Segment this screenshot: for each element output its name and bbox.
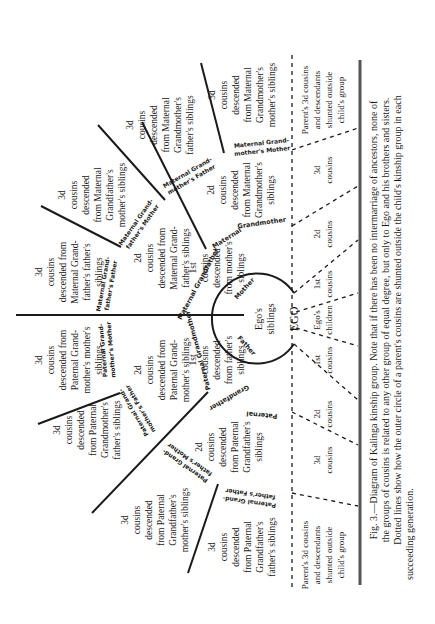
figure-caption: Fig. 3.—Diagram of Kalinga kinship group… — [368, 95, 415, 580]
svg-text:3d: 3d — [312, 455, 322, 465]
svg-text:the groups of cousins is relat: the groups of cousins is related to any … — [380, 98, 391, 543]
svg-text:Maternal Grand-: Maternal Grand- — [70, 240, 80, 304]
svg-text:descended: descended — [218, 427, 228, 467]
svg-text:cousins: cousins — [137, 110, 147, 139]
svg-text:cousins: cousins — [324, 346, 334, 373]
svg-text:father's siblings: father's siblings — [185, 95, 195, 155]
svg-text:father's father's: father's father's — [82, 243, 92, 301]
maternal-grandmother-label: Maternal Grandmother — [211, 216, 287, 251]
svg-text:cousins: cousins — [64, 415, 74, 444]
divider-pat-gf-outer — [188, 484, 218, 573]
ego-label: EGO — [287, 306, 301, 331]
svg-text:Grandmother's: Grandmother's — [173, 97, 183, 153]
svg-text:mother's siblings: mother's siblings — [267, 63, 277, 128]
third-cousins-mat-gm-father: 3d cousins descended from Maternal Grand… — [125, 95, 195, 155]
svg-text:mother's siblings: mother's siblings — [180, 488, 190, 553]
svg-text:descended: descended — [76, 410, 86, 450]
next-gen-3d-cousins-maternal: 3d cousins — [312, 156, 334, 183]
svg-text:cousins: cousins — [200, 345, 210, 374]
svg-text:mother's mother's: mother's mother's — [82, 326, 92, 393]
svg-text:siblings: siblings — [265, 303, 276, 334]
svg-text:Paternal: Paternal — [246, 410, 278, 421]
svg-text:2d: 2d — [312, 409, 322, 419]
svg-text:Grandfather's: Grandfather's — [168, 494, 178, 546]
svg-text:cousins: cousins — [46, 257, 56, 286]
svg-text:from Maternal: from Maternal — [243, 67, 253, 122]
svg-text:1st: 1st — [312, 354, 322, 365]
next-gen-1st-cousins-paternal: 1st cousins — [312, 346, 334, 373]
third-cousins-pat-gf-father: 3d cousins descended from Paternal Grand… — [207, 517, 277, 577]
svg-text:and descendants: and descendants — [312, 70, 322, 129]
svg-text:siblings: siblings — [236, 253, 246, 283]
next-gen-shunted-bottom: Parent's 3d cousins and descendants shun… — [300, 520, 346, 589]
svg-text:Paternal Grand-: Paternal Grand- — [70, 330, 80, 390]
next-gen-shunted-top: Parent's 3d cousins and descendants shun… — [300, 65, 346, 134]
svg-text:shunted outside: shunted outside — [324, 72, 334, 128]
svg-text:from Paternal: from Paternal — [243, 521, 253, 573]
svg-text:Grandfather's: Grandfather's — [255, 521, 265, 573]
svg-text:shunted outside: shunted outside — [324, 527, 334, 583]
svg-text:descended: descended — [149, 105, 159, 145]
svg-text:and descendants: and descendants — [312, 525, 322, 584]
svg-text:from Maternal: from Maternal — [161, 97, 171, 152]
third-cousins-mat-gf-mother: 3d cousins descended from Maternal Grand… — [57, 163, 127, 228]
next-gen-2d-cousins-maternal: 2d cousins — [312, 220, 334, 247]
maternal-grandmothers-mother-label: Maternal Grand- mother's Mother — [233, 136, 291, 157]
svg-text:mother's siblings: mother's siblings — [117, 163, 127, 228]
third-cousins-mat-gm-mother: 3d cousins descended from Maternal Grand… — [207, 63, 277, 128]
svg-text:siblings: siblings — [254, 432, 264, 462]
svg-text:from mother's: from mother's — [224, 241, 234, 294]
svg-text:Maternal Grand-: Maternal Grand- — [169, 226, 179, 290]
svg-text:2d: 2d — [133, 253, 143, 263]
svg-text:descended: descended — [212, 248, 222, 288]
svg-text:3d: 3d — [57, 190, 67, 200]
paternal-grandmothers-father-label: Paternal Grand- mother's Father — [117, 383, 157, 438]
next-gen-1st-cousins-maternal: 1st cousins — [312, 270, 334, 297]
paternal-grandfathers-father-label: Paternal Grand- father's Father — [222, 487, 278, 509]
dash-2d-top — [292, 186, 358, 226]
svg-text:descended: descended — [212, 340, 222, 380]
next-gen-egos-children: Ego's children — [312, 305, 334, 335]
third-cousins-mat-gf-father: 3d cousins descended from Maternal Grand… — [34, 240, 104, 304]
svg-text:child's group: child's group — [336, 76, 346, 123]
svg-text:Grandfather's: Grandfather's — [242, 421, 252, 473]
svg-text:Fig. 3.—Diagram of Kalinga kin: Fig. 3.—Diagram of Kalinga kinship group… — [368, 100, 379, 539]
svg-text:2d: 2d — [133, 365, 143, 375]
next-gen-3d-cousins-paternal: 3d cousins — [312, 446, 334, 473]
svg-text:descended from: descended from — [157, 227, 167, 288]
svg-text:descended: descended — [144, 500, 154, 540]
svg-text:cousins: cousins — [324, 220, 334, 247]
svg-text:father's siblings: father's siblings — [267, 517, 277, 577]
svg-text:2d: 2d — [194, 442, 204, 452]
svg-text:cousins: cousins — [324, 156, 334, 183]
svg-text:cousins: cousins — [219, 532, 229, 561]
svg-text:father's siblings: father's siblings — [112, 400, 122, 460]
svg-text:from father's: from father's — [224, 336, 234, 385]
svg-text:descended: descended — [231, 75, 241, 115]
svg-text:from Paternal: from Paternal — [88, 404, 98, 456]
svg-text:2d: 2d — [206, 185, 216, 195]
svg-text:3d: 3d — [207, 90, 217, 100]
svg-text:descended from: descended from — [58, 241, 68, 302]
svg-text:3d: 3d — [52, 425, 62, 435]
svg-text:cousins: cousins — [69, 180, 79, 209]
second-cousins-mat-gf: 2d cousins descended from Maternal Grand… — [133, 226, 191, 290]
svg-text:Grandfather: Grandfather — [207, 383, 250, 413]
svg-text:from Maternal: from Maternal — [93, 167, 103, 222]
svg-text:cousins: cousins — [206, 432, 216, 461]
svg-text:from Maternal: from Maternal — [242, 162, 252, 217]
svg-text:3d: 3d — [207, 542, 217, 552]
kinship-diagram: EGO Ego's siblings Mother Father Materna… — [0, 0, 435, 624]
svg-text:descended from: descended from — [157, 339, 167, 400]
second-cousins-pat-gf: 2d cousins descended from Paternal Grand… — [194, 421, 264, 473]
svg-text:3d: 3d — [34, 267, 44, 277]
svg-text:children: children — [324, 305, 334, 335]
svg-text:Parent's 3d cousins: Parent's 3d cousins — [300, 520, 310, 589]
svg-text:3d: 3d — [125, 120, 135, 130]
svg-text:3d: 3d — [312, 165, 322, 175]
third-cousins-pat-gf-mother: 3d cousins descended from Paternal Grand… — [120, 488, 190, 553]
svg-text:Ego's: Ego's — [253, 308, 264, 330]
svg-text:1st: 1st — [312, 278, 322, 289]
svg-text:descended: descended — [81, 175, 91, 215]
svg-text:Paternal Grand-: Paternal Grand- — [169, 340, 179, 400]
